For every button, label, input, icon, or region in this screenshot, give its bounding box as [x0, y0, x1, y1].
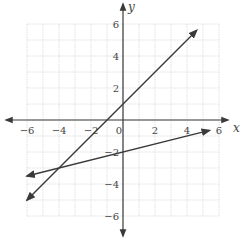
coordinate-plane: −6−4−20246−6−4−2246 x y — [0, 0, 244, 241]
y-tick-label: 6 — [113, 19, 119, 30]
y-tick-label: 4 — [113, 51, 119, 62]
x-tick-label: 2 — [152, 125, 158, 136]
y-tick-label: −4 — [104, 179, 119, 190]
x-tick-label: −6 — [20, 125, 35, 136]
x-tick-label: 4 — [184, 125, 190, 136]
y-axis-label: y — [127, 0, 135, 14]
y-tick-label: 2 — [113, 83, 119, 94]
x-tick-label: 0 — [116, 125, 122, 136]
axes — [6, 4, 228, 236]
x-axis-label: x — [233, 121, 240, 135]
y-tick-label: −6 — [104, 211, 119, 222]
line-2 — [27, 130, 209, 176]
x-tick-label: −4 — [52, 125, 67, 136]
x-tick-label: 6 — [216, 125, 222, 136]
